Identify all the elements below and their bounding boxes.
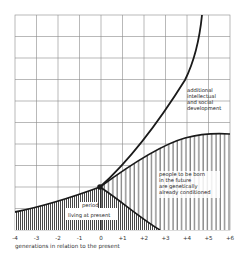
future-label-line-4: already conditioned bbox=[159, 189, 211, 196]
tick-label: -1 bbox=[77, 235, 83, 241]
tick-label: -2 bbox=[55, 235, 61, 241]
tick-label: 0 bbox=[99, 235, 103, 241]
future-label: people to be born in the future are gene… bbox=[158, 171, 220, 198]
x-axis-ticks: -4 -3 -2 -1 0 +1 +2 +3 +4 +5 +6 bbox=[12, 235, 234, 241]
tick-label: +3 bbox=[161, 235, 170, 241]
living-label-line-1: period bbox=[82, 202, 99, 209]
development-label-line-4: development bbox=[187, 105, 221, 112]
generations-diagram: period living at present people to be bo… bbox=[0, 0, 239, 257]
x-axis-title: generations in relation to the present bbox=[15, 243, 121, 250]
living-label-line-2: living at present bbox=[68, 212, 110, 219]
tick-label: -3 bbox=[34, 235, 40, 241]
present-point bbox=[97, 184, 103, 190]
tick-label: -4 bbox=[12, 235, 18, 241]
tick-label: +6 bbox=[226, 235, 235, 241]
tick-label: +5 bbox=[204, 235, 213, 241]
tick-label: +2 bbox=[140, 235, 148, 241]
tick-label: +4 bbox=[183, 235, 192, 241]
tick-label: +1 bbox=[118, 235, 127, 241]
development-label: additional intellectual and social devel… bbox=[187, 87, 221, 112]
